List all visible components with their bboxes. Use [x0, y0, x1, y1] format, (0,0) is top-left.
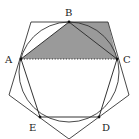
point-e	[39, 116, 42, 119]
label-a: A	[4, 54, 13, 65]
point-a	[20, 58, 23, 61]
figure-canvas: A B C D E	[0, 0, 139, 139]
label-e: E	[29, 122, 36, 133]
label-d: D	[102, 122, 110, 133]
point-b	[68, 21, 71, 24]
point-c	[116, 58, 119, 61]
label-c: C	[123, 54, 131, 65]
point-d	[98, 116, 101, 119]
geometry-figure: A B C D E	[0, 0, 139, 139]
label-b: B	[65, 7, 72, 18]
shaded-region	[21, 22, 117, 59]
